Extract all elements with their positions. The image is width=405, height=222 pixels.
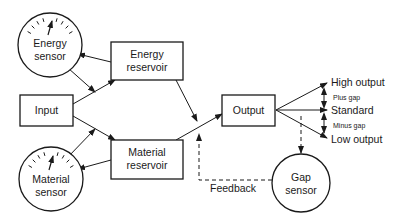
output-node: Output <box>222 95 275 126</box>
material-reservoir-label-line1: Material <box>128 146 165 158</box>
gap-sensor-label-line1: Gap <box>291 171 311 183</box>
output-levels: High output Plus gap Standard Minus gap … <box>331 76 385 145</box>
edge-energy-reservoir-to-output-line <box>176 80 197 121</box>
energy-sensor-node: Energy sensor <box>18 13 82 77</box>
energy-sensor-label-line2: sensor <box>34 50 66 62</box>
material-sensor-node: Material sensor <box>19 147 83 211</box>
energy-reservoir-label-line2: reservoir <box>127 61 168 73</box>
material-sensor-label-line1: Material <box>32 173 69 185</box>
edge-material-reservoir-to-output <box>176 114 222 140</box>
gap-sensor-node: Gap sensor <box>272 154 330 212</box>
edge-material-reservoir-to-material-sensor <box>78 160 111 169</box>
plus-gap-label: Plus gap <box>333 94 360 102</box>
input-label: Input <box>35 104 58 116</box>
energy-sensor-label-line1: Energy <box>33 37 67 49</box>
feedback-label: Feedback <box>210 182 257 194</box>
material-reservoir-label-line2: reservoir <box>127 159 168 171</box>
edge-output-to-high <box>276 83 327 110</box>
input-node: Input <box>20 95 73 126</box>
energy-reservoir-node: Energy reservoir <box>111 42 183 80</box>
gap-sensor-label-line2: sensor <box>285 184 317 196</box>
output-label: Output <box>233 104 265 116</box>
minus-gap-label: Minus gap <box>333 122 365 130</box>
edge-input-to-energy-reservoir <box>73 80 115 104</box>
edge-energy-sensor-to-input-line <box>68 68 95 92</box>
material-reservoir-node: Material reservoir <box>111 140 183 179</box>
low-output-label: Low output <box>331 133 382 145</box>
edge-feedback <box>199 134 272 180</box>
material-sensor-label-line2: sensor <box>35 186 67 198</box>
edge-input-to-material-reservoir <box>73 116 115 140</box>
control-flow-diagram: Energy sensor Energy reservoir Input Mat… <box>0 0 405 222</box>
edge-energy-reservoir-to-energy-sensor <box>78 54 111 62</box>
standard-label: Standard <box>331 104 374 116</box>
energy-reservoir-label-line1: Energy <box>130 48 164 60</box>
high-output-label: High output <box>331 76 385 88</box>
